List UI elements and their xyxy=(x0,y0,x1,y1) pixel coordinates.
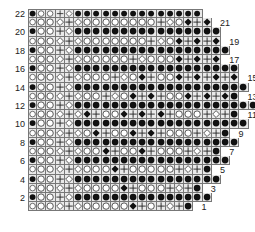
chart-cell xyxy=(157,73,166,82)
plus-icon xyxy=(147,147,155,155)
chart-cell xyxy=(193,129,202,138)
filled-circle-icon xyxy=(193,83,201,91)
filled-circle-icon xyxy=(147,119,155,127)
chart-cell xyxy=(74,156,83,165)
chart-row-8 xyxy=(28,138,239,147)
chart-cell xyxy=(83,64,92,73)
chart-cell xyxy=(92,202,101,211)
chart-cell xyxy=(28,193,37,202)
chart-cell xyxy=(37,165,46,174)
chart-cell xyxy=(175,101,184,110)
chart-cell xyxy=(102,73,111,82)
filled-circle-icon xyxy=(203,101,211,109)
open-circle-icon xyxy=(175,147,183,155)
chart-cell xyxy=(102,27,111,36)
chart-cell xyxy=(65,202,74,211)
chart-cell xyxy=(83,92,92,101)
filled-diamond-icon xyxy=(147,92,155,100)
chart-cell xyxy=(184,175,193,184)
chart-cell xyxy=(138,64,147,73)
chart-cell xyxy=(74,9,83,18)
chart-cell xyxy=(111,147,120,156)
chart-cell xyxy=(92,64,101,73)
chart-cell xyxy=(157,55,166,64)
chart-cell xyxy=(138,129,147,138)
chart-cell xyxy=(166,83,175,92)
open-circle-icon xyxy=(166,55,174,63)
plus-icon xyxy=(129,55,137,63)
plus-icon xyxy=(102,129,110,137)
chart-cell xyxy=(184,9,193,18)
filled-circle-icon xyxy=(129,64,137,72)
open-circle-icon xyxy=(175,129,183,137)
open-circle-icon xyxy=(37,18,45,26)
chart-cell xyxy=(28,184,37,193)
chart-cell xyxy=(28,27,37,36)
chart-cell xyxy=(138,165,147,174)
chart-cell xyxy=(83,119,92,128)
chart-cell xyxy=(157,119,166,128)
chart-cell xyxy=(37,46,46,55)
open-circle-icon xyxy=(166,165,174,173)
chart-cell xyxy=(138,55,147,64)
chart-cell xyxy=(175,156,184,165)
open-circle-icon xyxy=(147,202,155,210)
chart-cell xyxy=(175,165,184,174)
chart-cell xyxy=(46,202,55,211)
filled-circle-icon xyxy=(193,193,201,201)
chart-cell xyxy=(120,101,129,110)
chart-cell xyxy=(111,119,120,128)
chart-cell xyxy=(166,73,175,82)
filled-circle-icon xyxy=(157,138,165,146)
open-circle-icon xyxy=(175,92,183,100)
plus-icon xyxy=(147,110,155,118)
chart-cell xyxy=(74,110,83,119)
open-circle-icon xyxy=(46,46,54,54)
chart-cell xyxy=(212,119,221,128)
chart-cell xyxy=(203,110,212,119)
chart-cell xyxy=(65,101,74,110)
filled-circle-icon xyxy=(203,27,211,35)
chart-cell xyxy=(65,27,74,36)
open-circle-icon xyxy=(37,92,45,100)
chart-cell xyxy=(212,175,221,184)
chart-cell xyxy=(184,147,193,156)
filled-circle-icon xyxy=(129,119,137,127)
plus-icon xyxy=(56,119,64,127)
chart-cell xyxy=(157,156,166,165)
filled-circle-icon xyxy=(129,138,137,146)
chart-cell xyxy=(129,119,138,128)
chart-cell xyxy=(28,73,37,82)
filled-circle-icon xyxy=(175,27,183,35)
open-circle-icon xyxy=(46,175,54,183)
chart-cell xyxy=(37,175,46,184)
chart-cell xyxy=(221,101,230,110)
chart-cell xyxy=(83,46,92,55)
chart-cell xyxy=(102,55,111,64)
chart-cell xyxy=(46,83,55,92)
filled-circle-icon xyxy=(221,46,229,54)
plus-icon xyxy=(184,55,192,63)
open-circle-icon xyxy=(166,92,174,100)
chart-row-7 xyxy=(28,147,221,156)
open-circle-icon xyxy=(37,202,45,210)
chart-cell xyxy=(74,119,83,128)
chart-cell xyxy=(193,110,202,119)
open-circle-icon xyxy=(37,110,45,118)
chart-cell xyxy=(138,156,147,165)
open-diamond-icon xyxy=(65,156,73,164)
filled-circle-icon xyxy=(102,119,110,127)
chart-cell xyxy=(56,64,65,73)
open-circle-icon xyxy=(92,37,100,45)
open-circle-icon xyxy=(83,92,91,100)
plus-icon xyxy=(184,73,192,81)
chart-cell xyxy=(28,46,37,55)
open-circle-icon xyxy=(129,73,137,81)
chart-cell xyxy=(138,193,147,202)
chart-cell xyxy=(138,175,147,184)
chart-cell xyxy=(120,92,129,101)
plus-icon xyxy=(56,156,64,164)
open-diamond-icon xyxy=(74,18,82,26)
filled-circle-icon xyxy=(193,184,201,192)
open-diamond-icon xyxy=(65,193,73,201)
